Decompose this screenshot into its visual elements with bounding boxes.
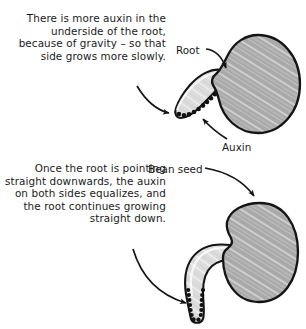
label-auxin: Auxin xyxy=(222,141,251,153)
caption-top: There is more auxin in the underside of … xyxy=(8,12,166,62)
arrow-auxin-label-to-root xyxy=(203,119,227,139)
arrow-caption-top-to-root-tip xyxy=(137,86,169,113)
diagram-canvas: There is more auxin in the underside of … xyxy=(0,0,306,329)
top-root xyxy=(175,70,224,118)
bottom-bean-seed xyxy=(223,203,298,302)
top-bean-seed xyxy=(212,35,300,133)
top-root-auxin-dots xyxy=(177,84,224,118)
arrow-root-label-to-seed xyxy=(206,49,226,68)
arrow-caption-bottom-to-root-tip xyxy=(133,249,186,303)
bottom-root-auxin-dots xyxy=(186,288,205,322)
caption-bottom: Once the root is pointing straight downw… xyxy=(4,162,166,225)
bottom-root xyxy=(185,245,236,323)
label-bean-seed: Bean seed xyxy=(148,163,203,175)
arrow-bean-seed-label-to-seed xyxy=(205,168,254,196)
label-root: Root xyxy=(176,44,200,56)
